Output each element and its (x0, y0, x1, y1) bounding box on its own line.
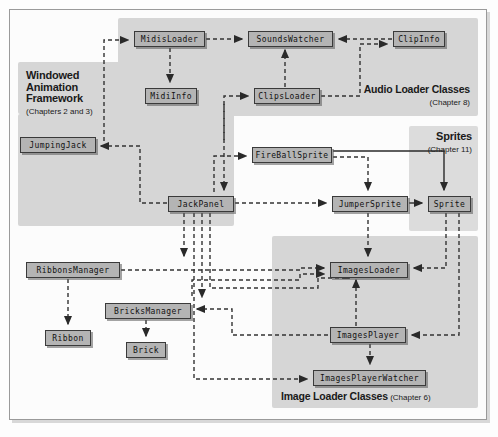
node-label: ImagesPlayer (337, 331, 400, 340)
class-diagram: Windowed Animation Framework (Chapters 2… (0, 0, 498, 437)
node-label: JumperSprite (339, 200, 402, 209)
node-label: ClipInfo (398, 35, 440, 44)
group-label-sprites: Sprites (Chapter 11) (398, 131, 472, 155)
node-clipinfo[interactable]: ClipInfo (393, 31, 445, 47)
group-label-audio-loader-classes: Audio Loader Classes (Chapter 8) (330, 84, 470, 108)
node-fireballsprite[interactable]: FireBallSprite (252, 147, 332, 163)
node-ribbonsmanager[interactable]: RibbonsManager (26, 262, 120, 278)
node-jumpersprite[interactable]: JumperSprite (332, 196, 408, 212)
node-label: JumpingJack (29, 141, 86, 150)
node-label: BricksManager (114, 307, 182, 316)
node-label: FireBallSprite (255, 151, 328, 160)
node-label: RibbonsManager (36, 266, 109, 275)
node-clipsloader[interactable]: ClipsLoader (254, 88, 320, 104)
node-bricksmanager[interactable]: BricksManager (105, 303, 191, 319)
group-label-windowed-animation-framework: Windowed Animation Framework (Chapters 2… (26, 70, 130, 117)
node-label: MidisLoader (141, 35, 198, 44)
node-soundswatcher[interactable]: SoundsWatcher (248, 31, 333, 47)
node-midisloader[interactable]: MidisLoader (134, 31, 205, 47)
node-label: ImagesPlayerWatcher (320, 374, 419, 383)
node-jumpingjack[interactable]: JumpingJack (20, 137, 96, 153)
node-brick[interactable]: Brick (126, 342, 166, 358)
node-sprite[interactable]: Sprite (428, 196, 471, 212)
node-label: ClipsLoader (258, 92, 315, 101)
node-label: Brick (133, 346, 159, 355)
node-jackpanel[interactable]: JackPanel (168, 196, 234, 212)
node-label: JackPanel (178, 200, 225, 209)
node-label: SoundsWatcher (257, 35, 325, 44)
node-imagesloader[interactable]: ImagesLoader (330, 262, 408, 278)
group-label-image-loader-classes: Image Loader Classes (Chapter 6) (281, 391, 481, 404)
node-label: Sprite (434, 200, 465, 209)
node-label: Ribbon (52, 334, 83, 343)
node-label: MidiInfo (150, 92, 192, 101)
node-imagesplayerwatcher[interactable]: ImagesPlayerWatcher (313, 370, 426, 386)
node-midiinfo[interactable]: MidiInfo (145, 88, 197, 104)
node-imagesplayer[interactable]: ImagesPlayer (330, 327, 406, 343)
node-ribbon[interactable]: Ribbon (45, 330, 91, 346)
node-label: ImagesLoader (338, 266, 401, 275)
